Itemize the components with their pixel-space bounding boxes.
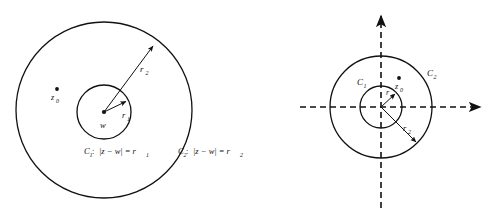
point-z0 xyxy=(55,87,59,91)
right-panel: C 1 C 2 z 0 r 1 r 2 xyxy=(300,16,480,208)
label-z0: z xyxy=(394,82,399,91)
label-r1: r xyxy=(386,88,390,97)
caption-c2-equation-subscript: 2 xyxy=(240,152,243,158)
label-w: w xyxy=(100,120,106,130)
label-c1-subscript: 1 xyxy=(364,83,367,89)
label-r1-subscript: 1 xyxy=(391,93,394,99)
label-r1-subscript: 1 xyxy=(127,116,130,122)
label-r2: r xyxy=(403,123,407,133)
caption-c2: C 2 : |z − w| = r 2 xyxy=(178,146,243,158)
figure-root: w z 0 r 1 r 2 C 1 : |z − w| = r 1 C 2 : xyxy=(0,0,500,218)
caption-c2-equation: |z − w| = r xyxy=(193,146,231,156)
label-z0-subscript: 0 xyxy=(56,98,59,104)
point-z0 xyxy=(397,76,401,80)
left-panel: w z 0 r 1 r 2 C 1 : |z − w| = r 1 C 2 : xyxy=(16,22,243,198)
caption-c1-equation: |z − w| = r xyxy=(99,146,137,156)
radius-arrow-r2 xyxy=(381,107,416,142)
caption-c2-colon: : xyxy=(186,146,188,156)
label-r2: r xyxy=(140,64,144,74)
label-z0: z xyxy=(50,93,55,102)
caption-c1-colon: : xyxy=(92,146,94,156)
label-r2-subscript: 2 xyxy=(146,70,149,76)
caption-c1-equation-subscript: 1 xyxy=(146,152,149,158)
label-r2-subscript: 2 xyxy=(408,129,411,135)
label-z0-subscript: 0 xyxy=(400,87,403,93)
diagram-canvas: w z 0 r 1 r 2 C 1 : |z − w| = r 1 C 2 : xyxy=(0,0,500,218)
label-r1: r xyxy=(122,110,126,120)
label-c2-subscript: 2 xyxy=(434,74,437,80)
caption-c1: C 1 : |z − w| = r 1 xyxy=(84,146,149,158)
